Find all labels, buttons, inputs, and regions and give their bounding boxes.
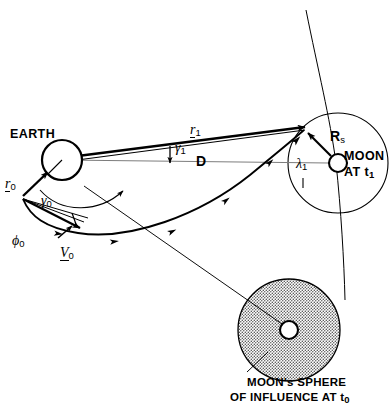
v0-label: V0 xyxy=(60,244,74,261)
lunar-trajectory-diagram: EARTH r0 γ0 ϕ0 V0 r1 γ1 D Rs λ1 MOON AT … xyxy=(0,0,392,408)
gamma0-subscript: 0 xyxy=(47,198,52,209)
trajectory-arrow-3 xyxy=(167,227,177,236)
v0-subscript: 0 xyxy=(69,250,74,261)
moon-label-line2: AT t1 xyxy=(344,166,375,180)
Rs-subscript: s xyxy=(340,134,345,145)
lambda1-label: λ1 xyxy=(296,155,307,172)
phi0-subscript: 0 xyxy=(19,238,24,249)
lambda1-subscript: 1 xyxy=(302,161,307,172)
r1-label: r1 xyxy=(190,121,201,138)
diagram-canvas xyxy=(0,0,392,408)
soi-caption-t0-subscript: 0 xyxy=(344,394,350,405)
earth-label: EARTH xyxy=(10,128,55,141)
moon-circle-t0 xyxy=(280,321,298,339)
Rs-label: Rs xyxy=(330,128,345,145)
trajectory-arrow-4 xyxy=(221,196,231,206)
r1-subscript: 1 xyxy=(195,127,200,138)
soi-caption-text: OF INFLUENCE AT t xyxy=(230,391,344,403)
phi0-label: ϕ0 xyxy=(12,232,25,249)
Rs-vector-line xyxy=(308,133,331,156)
r0-subscript: 0 xyxy=(10,181,15,192)
moon-at-text: AT t xyxy=(344,165,369,179)
gamma0-angle-arc xyxy=(40,190,123,208)
Rs-symbol: R xyxy=(330,128,340,144)
r0-label: r0 xyxy=(5,175,16,192)
v0-reference-line xyxy=(23,199,84,222)
soi-sight-line xyxy=(84,186,292,331)
gamma0-label: γ0 xyxy=(41,192,52,209)
soi-caption-line1: MOON's SPHERE xyxy=(247,377,346,389)
D-label: D xyxy=(196,154,206,168)
gamma1-label: γ1 xyxy=(175,139,186,156)
moon-label-line1: MOON xyxy=(344,150,385,163)
trajectory-arrow-2 xyxy=(110,238,120,244)
gamma1-subscript: 1 xyxy=(181,145,186,156)
moon-t1-subscript: 1 xyxy=(369,169,375,180)
soi-caption-line2: OF INFLUENCE AT t0 xyxy=(230,392,350,405)
v0-symbol: V xyxy=(60,245,69,261)
